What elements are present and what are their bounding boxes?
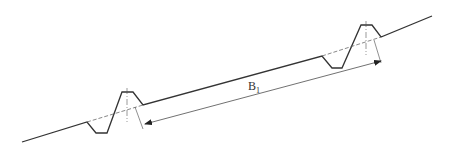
extension-line-left [135,107,143,129]
extension-line-right [374,40,381,63]
ground-profile [22,16,432,142]
terrace-diagram [0,0,452,158]
dimension-label-subscript: 1 [256,86,260,95]
dimension-label: B1 [248,79,260,95]
dimension-line-b1 [145,61,381,124]
dimension-label-text: B [248,79,256,93]
original-slope-right [322,37,381,56]
original-slope-left [87,105,143,122]
